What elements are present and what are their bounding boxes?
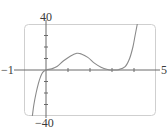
y-max-label: 40 xyxy=(40,11,52,23)
x-min-label: −1 xyxy=(1,64,14,76)
x-max-label: 5 xyxy=(161,64,167,76)
y-min-label: −40 xyxy=(35,117,54,129)
function-graph xyxy=(0,0,168,132)
